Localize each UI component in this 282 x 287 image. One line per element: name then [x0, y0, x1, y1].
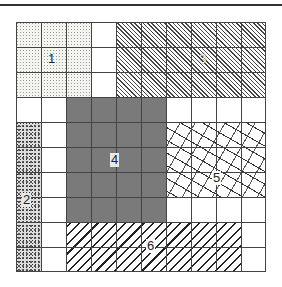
region-3-label: 3 [198, 52, 207, 66]
region-4-label: 4 [110, 153, 119, 167]
region-6-label: 6 [146, 239, 155, 253]
region-5 [166, 122, 266, 197]
region-5-label: 5 [212, 171, 221, 185]
region-2-label: 2 [22, 193, 31, 207]
region-1-label: 1 [47, 52, 56, 66]
region-3 [116, 22, 266, 97]
top-rule [0, 4, 282, 6]
region-grid: 1 2 3 4 5 6 [16, 22, 266, 272]
